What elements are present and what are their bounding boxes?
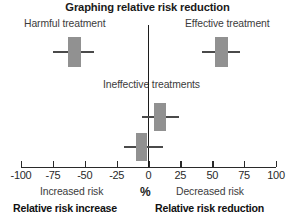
effect-estimate-box (215, 37, 228, 67)
x-axis-tick (85, 161, 86, 167)
effect-estimate-box (136, 133, 147, 161)
effect-estimate-box (154, 103, 167, 131)
effect-estimate-box (68, 37, 81, 67)
caption-relative-risk-increase: Relative risk increase (13, 202, 117, 214)
x-axis-tick-label: 100 (256, 169, 295, 181)
x-axis-tick (276, 161, 277, 167)
x-axis-tick (244, 161, 245, 167)
x-axis-tick (180, 161, 181, 167)
x-axis-tick (212, 161, 213, 167)
x-axis-tick (117, 161, 118, 167)
x-axis-tick (149, 161, 150, 167)
x-axis-tick (53, 161, 54, 167)
caption-decreased-risk: Decreased risk (176, 186, 244, 197)
caption-increased-risk: Increased risk (40, 186, 103, 197)
caption-relative-risk-reduction: Relative risk reduction (155, 202, 264, 214)
x-axis-tick (21, 161, 22, 167)
percent-symbol: % (140, 185, 151, 199)
forest-plot-figure: Graphing relative risk reduction Harmful… (0, 0, 295, 219)
